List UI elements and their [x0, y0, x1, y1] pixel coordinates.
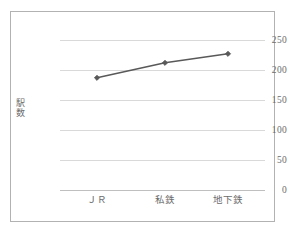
- chart-figure: 駅 数 250 200 150 100 50 0 ＪＲ 私鉄 地下鉄: [0, 0, 287, 235]
- data-point-ＪＲ: [94, 75, 99, 80]
- data-point-地下鉄: [225, 51, 230, 56]
- data-point-私鉄: [162, 60, 167, 65]
- series-line-ekisu: [97, 54, 228, 78]
- series-line-chart: [0, 0, 287, 235]
